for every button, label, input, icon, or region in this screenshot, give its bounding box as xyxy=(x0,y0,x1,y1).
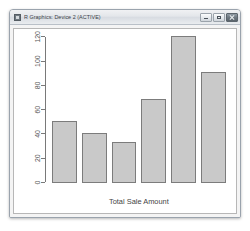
y-axis-tick-label: 100 xyxy=(34,55,41,67)
maximize-icon[interactable] xyxy=(213,13,225,22)
window-title: R Graphics: Device 2 (ACTIVE) xyxy=(24,14,200,21)
bar xyxy=(172,37,196,183)
y-axis-tick-label: 120 xyxy=(34,31,41,43)
x-axis-title-text: Total Sale Amount xyxy=(109,197,169,206)
window-controls xyxy=(200,13,238,22)
bar xyxy=(201,72,225,182)
graphics-client-area: 020406080100120 Total Sale Amount xyxy=(10,25,240,217)
close-icon[interactable] xyxy=(226,13,238,22)
y-axis: 020406080100120 xyxy=(34,31,45,184)
r-graphics-window[interactable]: R Graphics: Device 2 (ACTIVE) 0204060801… xyxy=(9,9,241,218)
bar xyxy=(82,134,106,183)
r-graphics-icon xyxy=(14,14,21,21)
barplot-svg: 020406080100120 Total Sale Amount xyxy=(14,29,236,213)
y-axis-tick-label: 20 xyxy=(34,154,41,162)
bar xyxy=(142,100,166,183)
y-axis-tick-label: 60 xyxy=(34,106,41,114)
bar xyxy=(53,122,77,183)
minimize-icon[interactable] xyxy=(200,13,212,22)
desktop-background: R Graphics: Device 2 (ACTIVE) 0204060801… xyxy=(0,0,250,231)
y-axis-tick-label: 80 xyxy=(34,81,41,89)
x-axis-title: Total Sale Amount xyxy=(109,197,169,206)
bar xyxy=(112,142,136,182)
y-axis-tick-label: 0 xyxy=(34,180,41,184)
y-axis-tick-label: 40 xyxy=(34,130,41,138)
minimize-glyph xyxy=(204,18,208,19)
window-titlebar[interactable]: R Graphics: Device 2 (ACTIVE) xyxy=(10,10,240,25)
bars-group xyxy=(53,37,225,183)
plot-canvas[interactable]: 020406080100120 Total Sale Amount xyxy=(13,28,237,214)
maximize-glyph xyxy=(217,16,221,19)
